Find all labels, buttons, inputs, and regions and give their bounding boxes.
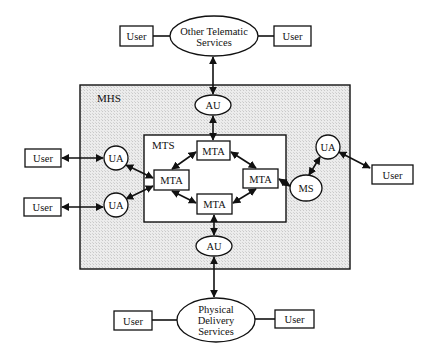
user-top-right-label: User — [283, 31, 303, 42]
au-top-node: AU — [195, 95, 231, 115]
ua-left-top-label: UA — [108, 153, 124, 164]
mta-bottom-label: MTA — [203, 199, 226, 210]
mta-top-label: MTA — [202, 146, 225, 157]
user-top-left-box: User — [120, 26, 153, 46]
ua-left-bottom-node: UA — [104, 193, 128, 217]
user-bottom-right-label: User — [285, 314, 305, 325]
user-right-box: User — [372, 165, 413, 184]
user-right-label: User — [383, 170, 403, 181]
mhs-label: MHS — [97, 92, 121, 104]
physical-delivery-label: Services — [198, 326, 234, 337]
user-left-bottom-box: User — [24, 198, 61, 216]
mta-left-box: MTA — [154, 170, 189, 190]
physical-delivery-node: PhysicalDeliveryServices — [177, 298, 255, 342]
other-telematic-label: Other Telematic — [180, 26, 248, 37]
mhs-diagram: MHSMTS Other TelematicServicesPhysicalDe… — [0, 0, 434, 362]
mta-right-box: MTA — [243, 169, 278, 188]
ms-label: MS — [298, 183, 313, 194]
physical-delivery-label: Physical — [198, 304, 234, 315]
user-bottom-right-box: User — [275, 310, 314, 328]
user-bottom-left-box: User — [114, 311, 152, 330]
mta-top-box: MTA — [197, 141, 230, 160]
other-telematic-node: Other TelematicServices — [170, 16, 258, 56]
physical-delivery-label: Delivery — [198, 315, 235, 326]
user-left-top-box: User — [25, 149, 61, 167]
other-telematic-label: Services — [196, 37, 232, 48]
mta-bottom-box: MTA — [197, 194, 232, 214]
ua-left-bottom-label: UA — [108, 200, 124, 211]
ua-right-node: UA — [316, 135, 340, 159]
ua-left-top-node: UA — [104, 146, 128, 170]
user-left-top-label: User — [33, 153, 53, 164]
ms-node: MS — [290, 175, 322, 201]
au-bottom-label: AU — [206, 241, 222, 252]
user-top-right-box: User — [274, 26, 311, 46]
user-left-bottom-label: User — [33, 202, 53, 213]
mts-label: MTS — [152, 139, 175, 151]
au-bottom-node: AU — [196, 236, 232, 256]
mta-left-label: MTA — [160, 175, 183, 186]
user-top-left-label: User — [127, 31, 147, 42]
mta-right-label: MTA — [249, 174, 272, 185]
au-top-label: AU — [205, 100, 221, 111]
ua-right-label: UA — [320, 142, 336, 153]
user-bottom-left-label: User — [123, 316, 143, 327]
